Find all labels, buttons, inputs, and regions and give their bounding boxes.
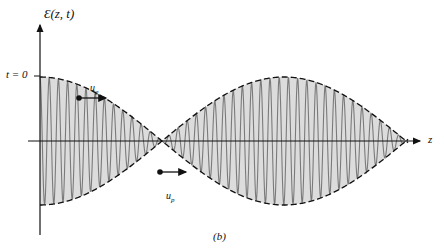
phase-velocity-subscript: p — [171, 196, 175, 204]
x-axis-label: z — [428, 133, 432, 145]
wave-packet-figure: Ɛ(z, t) t = 0 z ug up (b) — [0, 0, 444, 251]
figure-caption: (b) — [213, 230, 226, 242]
group-velocity-subscript: g — [95, 88, 99, 96]
plot-area — [0, 0, 444, 251]
time-label: t = 0 — [6, 68, 27, 80]
group-velocity-label: ug — [90, 82, 99, 96]
y-axis-label: Ɛ(z, t) — [44, 6, 74, 22]
phase-velocity-label: up — [166, 190, 175, 204]
